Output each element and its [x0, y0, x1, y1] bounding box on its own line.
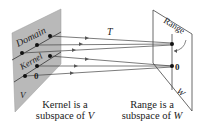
arrowheads: [70, 36, 89, 75]
kernel-caption-line2: subspace of V: [30, 110, 100, 121]
kernel-caption-line1: Kernel is a: [30, 99, 100, 110]
range-point: [170, 42, 174, 46]
t-label: T: [107, 26, 114, 37]
range-caption: Range is a subspace of W: [117, 99, 187, 121]
range-zero-point: [170, 64, 174, 68]
range-caption-line1: Range is a: [117, 99, 187, 110]
range-caption-line2: subspace of W: [117, 110, 187, 121]
range-zero-label: 0: [175, 62, 180, 72]
domain-zero-label: 0: [34, 71, 39, 81]
kernel-caption: Kernel is a subspace of V: [30, 99, 100, 121]
